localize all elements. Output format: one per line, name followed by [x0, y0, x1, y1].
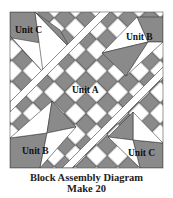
label-unit-b-bottom-left: Unit B [22, 146, 49, 156]
caption-subtitle: Make 20 [0, 183, 173, 194]
label-unit-a-center: Unit A [72, 85, 99, 95]
label-unit-c-top-left: Unit C [15, 25, 42, 35]
block-assembly-diagram: Unit C Unit B Unit A Unit B Unit C [0, 0, 173, 170]
label-unit-b-top-right: Unit B [126, 32, 153, 42]
label-unit-c-bottom-right: Unit C [128, 148, 155, 158]
caption-title: Block Assembly Diagram [0, 172, 173, 183]
